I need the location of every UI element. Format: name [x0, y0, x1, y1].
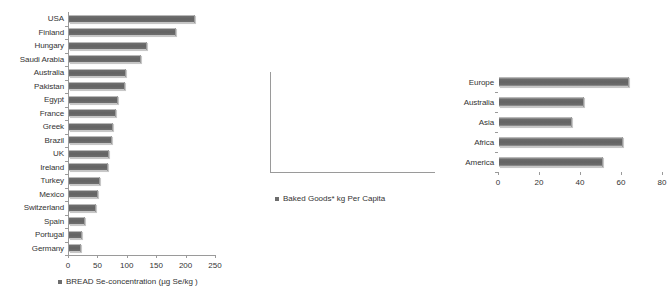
category-label: Africa	[442, 138, 494, 147]
category-label: America	[442, 158, 494, 167]
category-label: Germany	[6, 244, 64, 253]
bar	[499, 117, 572, 127]
x-tick-mark	[97, 255, 98, 258]
x-tick-mark	[156, 255, 157, 258]
bar	[69, 109, 116, 117]
category-label: France	[6, 109, 64, 118]
y-tick-mark	[65, 174, 68, 175]
category-label: Spain	[6, 217, 64, 226]
y-tick-mark	[65, 242, 68, 243]
x-tick-label: 0	[478, 178, 518, 187]
y-tick-mark	[65, 120, 68, 121]
y-tick-mark	[65, 134, 68, 135]
y-axis-line-right	[270, 72, 271, 172]
y-tick-mark	[495, 152, 498, 153]
bar	[69, 204, 96, 212]
category-label: Turkey	[6, 176, 64, 185]
bar	[69, 190, 98, 198]
category-label: Australia	[6, 68, 64, 77]
y-tick-mark	[65, 188, 68, 189]
category-label: Australia	[442, 98, 494, 107]
y-tick-mark	[65, 39, 68, 40]
x-tick-mark	[215, 255, 216, 258]
category-label: Portugal	[6, 230, 64, 239]
x-tick-mark	[580, 172, 581, 175]
bar	[499, 97, 584, 107]
y-tick-mark	[65, 53, 68, 54]
y-tick-mark	[65, 201, 68, 202]
bar	[69, 177, 100, 185]
chart-bread-se-concentration: USAFinlandHungarySaudi ArabiaAustraliaPa…	[0, 0, 228, 301]
category-label: Switzerland	[6, 203, 64, 212]
category-label: USA	[6, 14, 64, 23]
x-axis-line-right	[270, 172, 435, 173]
bar	[69, 123, 113, 131]
x-tick-label: 60	[601, 178, 641, 187]
category-label: Brazil	[6, 136, 64, 145]
y-tick-mark	[65, 26, 68, 27]
x-tick-mark	[662, 172, 663, 175]
bar	[69, 28, 176, 36]
category-label: Europe	[442, 78, 494, 87]
legend-right: Baked Goods* kg Per Capita	[275, 194, 385, 204]
bar	[69, 150, 109, 158]
legend-swatch-icon-right	[275, 197, 279, 201]
category-label: Greek	[6, 122, 64, 131]
category-label: Saudi Arabia	[6, 55, 64, 64]
bar	[69, 69, 126, 77]
y-tick-mark	[65, 93, 68, 94]
bar	[69, 163, 108, 171]
y-tick-mark	[65, 107, 68, 108]
bar	[499, 157, 603, 167]
bar	[69, 15, 195, 23]
y-tick-mark	[495, 172, 498, 173]
x-tick-mark	[186, 255, 187, 258]
category-label: Hungary	[6, 41, 64, 50]
y-tick-mark	[65, 228, 68, 229]
category-label: Asia	[442, 118, 494, 127]
x-tick-mark	[68, 255, 69, 258]
x-tick-mark	[539, 172, 540, 175]
bar	[69, 136, 112, 144]
category-label: Finland	[6, 28, 64, 37]
x-tick-label: 80	[642, 178, 671, 187]
bar	[69, 55, 141, 63]
x-tick-mark	[621, 172, 622, 175]
legend-label-right: Baked Goods* kg Per Capita	[283, 194, 385, 204]
bar	[69, 96, 118, 104]
plot-area-right	[270, 72, 434, 172]
x-tick-mark	[498, 172, 499, 175]
legend-label-left: BREAD Se-concentration (µg Se/kg )	[66, 277, 198, 287]
category-label: Mexico	[6, 190, 64, 199]
bar	[69, 82, 125, 90]
legend-left: BREAD Se-concentration (µg Se/kg )	[58, 277, 198, 287]
bar	[69, 42, 147, 50]
y-tick-mark	[495, 92, 498, 93]
y-tick-mark	[65, 66, 68, 67]
x-tick-label: 40	[560, 178, 600, 187]
y-tick-mark	[65, 80, 68, 81]
bar	[69, 217, 85, 225]
category-label: UK	[6, 149, 64, 158]
y-tick-mark	[495, 112, 498, 113]
y-tick-mark	[65, 147, 68, 148]
category-label: Egypt	[6, 95, 64, 104]
legend-swatch-icon-left	[58, 280, 62, 284]
bar	[69, 231, 82, 239]
chart-baked-goods-per-capita: EuropeAustraliaAsiaAfricaAmerica 0204060…	[228, 0, 453, 301]
bar	[69, 244, 81, 252]
x-axis-line-left	[68, 255, 216, 256]
y-tick-mark	[495, 132, 498, 133]
x-tick-mark	[127, 255, 128, 258]
bar	[499, 77, 629, 87]
y-tick-mark	[65, 215, 68, 216]
x-tick-label: 20	[519, 178, 559, 187]
y-tick-mark	[65, 255, 68, 256]
category-label: Ireland	[6, 163, 64, 172]
bar	[499, 137, 623, 147]
category-label: Pakistan	[6, 82, 64, 91]
y-tick-mark	[65, 161, 68, 162]
